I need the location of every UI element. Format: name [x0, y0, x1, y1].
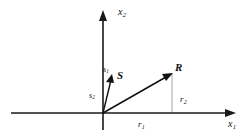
s-vector-arrowhead	[106, 74, 114, 83]
x2-axis-arrowhead	[99, 10, 107, 21]
s-vector-shaft	[103, 80, 111, 113]
s2-component-label: s2	[89, 92, 95, 100]
x2-axis-label: x2	[118, 7, 126, 17]
r2-component-label: r2	[180, 95, 187, 104]
r1-component-label: r1	[138, 120, 145, 129]
x1-axis-arrowhead	[225, 109, 236, 117]
r-vector-label: R	[175, 62, 182, 73]
r-vector-arrowhead	[162, 73, 173, 81]
x1-axis-label: x1	[228, 119, 236, 129]
s-vector-label: S	[117, 70, 123, 81]
s1-component-label: s1	[103, 66, 109, 74]
vector-diagram-figure: x2 x1 s1 S s2 R r1 r2	[0, 0, 245, 140]
